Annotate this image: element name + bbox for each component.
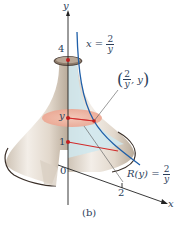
- curve-equation-denominator: y: [108, 45, 113, 54]
- paren-close: ): [143, 70, 149, 89]
- radius-equation-denominator: y: [164, 175, 169, 184]
- x-axis-label: x: [168, 199, 174, 209]
- point-label-denominator: y: [125, 80, 130, 89]
- point-y-1: [66, 140, 70, 144]
- radius-equation-label: R(y) = 2 y: [127, 165, 170, 184]
- y-axis-label: y: [63, 1, 69, 11]
- curve-equation-label: x = 2 y: [86, 35, 114, 54]
- x-tick-2-label: 2: [118, 188, 124, 198]
- radius-equation-fraction: 2 y: [163, 165, 171, 184]
- origin-label: 0: [60, 166, 66, 176]
- point-label-suffix: , y: [131, 74, 143, 85]
- curve-equation-fraction: 2 y: [106, 35, 114, 54]
- y-tick-1: 1: [59, 137, 65, 147]
- point-label-fraction: 2y: [123, 70, 131, 89]
- point-y: [66, 116, 70, 120]
- radius-equation-lhs: R(y) =: [127, 168, 160, 179]
- solid-of-revolution-diagram: [0, 0, 174, 226]
- point-y-4: [66, 58, 70, 62]
- x-axis-arrow: [161, 199, 168, 204]
- y-variable-label: y: [59, 111, 65, 121]
- point-on-curve: [92, 119, 96, 123]
- y-tick-4: 4: [58, 44, 64, 54]
- point-label: (2y, y): [117, 70, 149, 89]
- figure-caption: (b): [82, 208, 96, 218]
- curve-equation-lhs: x =: [86, 38, 103, 49]
